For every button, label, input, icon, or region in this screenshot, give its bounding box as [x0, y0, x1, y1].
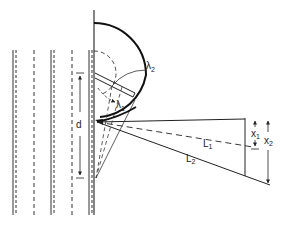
wall-lines	[13, 10, 94, 215]
lambda1-leader	[98, 88, 115, 102]
L2-label: L2	[186, 153, 196, 165]
inner-dashed-arc	[94, 51, 116, 94]
tilted-plate	[95, 73, 135, 97]
rays	[97, 119, 270, 185]
optics-diagram: d λ2 λ1 L1 L2	[0, 0, 290, 232]
L1-label: L1	[203, 138, 213, 150]
x2-label: x2	[264, 135, 273, 147]
x1-label: x1	[251, 128, 260, 140]
lambda1-label: λ1	[116, 99, 125, 112]
d-label: d	[76, 119, 82, 130]
lambda2-label: λ2	[146, 60, 155, 73]
